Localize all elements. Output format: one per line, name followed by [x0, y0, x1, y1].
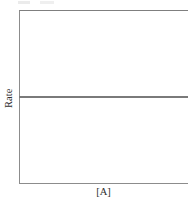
zero-order-rate-line [19, 96, 188, 98]
x-axis-label: [A] [19, 187, 188, 198]
y-axis-label-text: Rate [4, 88, 15, 108]
y-axis-label: Rate [0, 72, 18, 124]
rate-vs-concentration-figure: Rate [A] [0, 0, 188, 202]
clipped-caption-artifact [18, 0, 64, 5]
